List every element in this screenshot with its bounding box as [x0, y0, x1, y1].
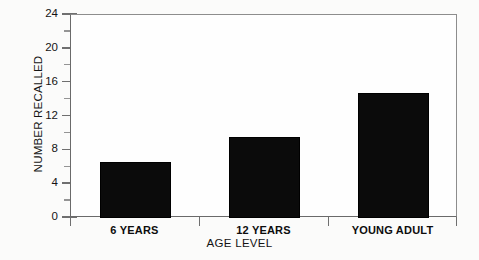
- plot-area: [70, 14, 457, 217]
- bar-chart-figure: NUMBER RECALLED 04812162024 6 YEARS12 YE…: [0, 0, 479, 260]
- x-axis-title: AGE LEVEL: [0, 237, 479, 249]
- y-axis-tick-label-text: 8: [32, 143, 58, 155]
- y-axis-tick-label-text: 24: [32, 8, 58, 20]
- y-axis-tick-label-text: 12: [32, 110, 58, 122]
- y-axis-tick-label-text: 0: [32, 211, 58, 223]
- y-axis-tick-label-text: 4: [32, 177, 58, 189]
- x-axis-category-label: 6 YEARS: [65, 224, 205, 236]
- x-axis-category-label: 12 YEARS: [194, 224, 334, 236]
- bar: [229, 137, 300, 218]
- y-axis-tick-label-text: 20: [32, 42, 58, 54]
- x-axis-category-label: YOUNG ADULT: [323, 224, 463, 236]
- bar: [358, 93, 429, 218]
- bar: [100, 162, 171, 218]
- y-axis-tick-label-text: 16: [32, 76, 58, 88]
